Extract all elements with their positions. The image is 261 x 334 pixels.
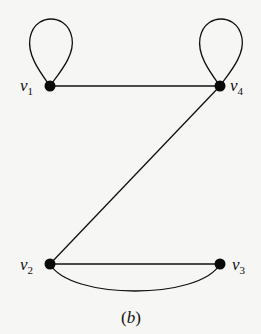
vertex-v2 (45, 259, 56, 270)
vertex-label-v2: v2 (20, 255, 33, 276)
vertex-label-v4: v4 (230, 76, 244, 97)
vertex-v1 (45, 81, 56, 92)
figure-caption: (b) (121, 308, 141, 327)
edge-v4-v2 (50, 86, 220, 264)
edge-loop-v1 (30, 19, 73, 86)
edge-v2-v3-curved (50, 264, 220, 291)
vertex-label-v3: v3 (232, 255, 246, 276)
vertex-label-v1: v1 (20, 76, 33, 97)
graph-diagram: v1 v4 v2 v3 (b) (0, 0, 261, 334)
vertex-v4 (215, 81, 226, 92)
vertex-v3 (215, 259, 226, 270)
